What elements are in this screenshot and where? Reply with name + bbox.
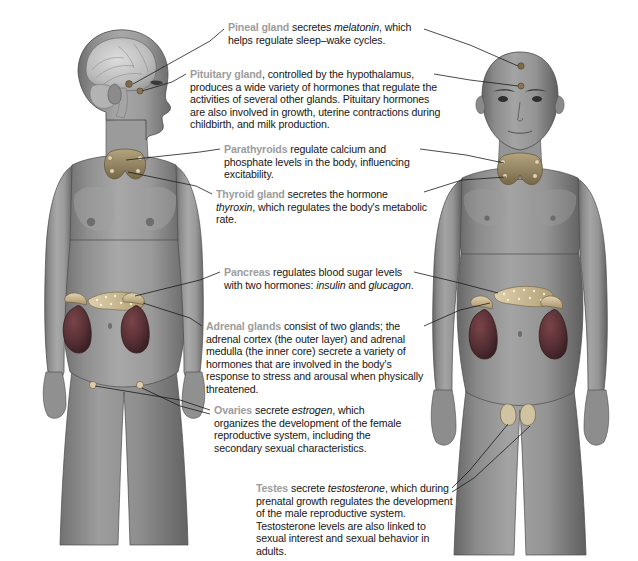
callout-pancreas: Pancreas regulates blood sugar levels wi…	[224, 266, 420, 291]
hormone-testosterone: testosterone	[328, 482, 385, 494]
callout-thyroid-gland: Thyroid gland secretes the hormone thyro…	[216, 188, 428, 226]
hormone-insulin: insulin	[316, 279, 345, 291]
male-nipple-left	[484, 215, 489, 220]
callout-ovaries: Ovaries secrete estrogen, which organize…	[214, 404, 404, 454]
hormone-thyroxin: thyroxin	[216, 201, 252, 213]
gland-label-pancreas: Pancreas	[224, 266, 270, 278]
callout-pituitary-gland: Pituitary gland, controlled by the hypot…	[190, 68, 442, 131]
male-figure	[431, 52, 609, 555]
male-hand-left	[431, 390, 456, 445]
callout-adrenal-glands: Adrenal glands consist of two glands; th…	[206, 320, 428, 396]
male-hand-right	[584, 390, 609, 445]
pituitary-gland-female	[137, 88, 143, 94]
callout-parathyroids: Parathyroids regulate calcium and phosph…	[224, 143, 424, 181]
male-navel	[518, 331, 522, 337]
female-navel	[108, 323, 112, 329]
testis-right	[520, 404, 536, 426]
gland-label-pineal: Pineal gland	[228, 21, 289, 33]
endocrine-system-diagram: Pineal gland secretes melatonin, which h…	[0, 0, 638, 561]
gland-label-testes: Testes	[256, 482, 288, 494]
gland-label-ovaries: Ovaries	[214, 404, 252, 416]
pineal-gland-male	[518, 63, 524, 69]
ovary-left	[89, 381, 96, 388]
callout-testes: Testes secrete testosterone, which durin…	[256, 482, 456, 558]
callout-pancreas-text-after: .	[411, 279, 414, 291]
gland-label-parathyroids: Parathyroids	[224, 143, 288, 155]
male-eye-right	[532, 96, 542, 102]
female-hand-right	[182, 372, 205, 418]
female-hand-left	[43, 372, 66, 418]
pituitary-gland-male	[518, 83, 524, 89]
callout-ovaries-text-before: secrete	[252, 404, 292, 416]
callout-testes-text-before: secrete	[288, 482, 328, 494]
female-figure	[43, 30, 205, 545]
callout-thyroid-text-before: secretes the hormone	[285, 188, 388, 200]
female-nipple-left	[87, 218, 95, 226]
gland-label-pituitary: Pituitary gland	[190, 68, 262, 80]
callout-pancreas-text-mid: and	[346, 279, 369, 291]
gland-label-adrenal: Adrenal glands	[206, 320, 281, 332]
hormone-melatonin: melatonin	[334, 21, 379, 33]
hormone-estrogen: estrogen	[292, 404, 332, 416]
male-eye-left	[498, 96, 508, 102]
pineal-gland-female	[126, 81, 133, 88]
callout-pineal-text-before: secretes	[289, 21, 334, 33]
ovary-right	[136, 381, 143, 388]
male-nipple-right	[550, 215, 555, 220]
female-ear	[108, 84, 121, 104]
gland-label-thyroid: Thyroid gland	[216, 188, 285, 200]
female-legs	[60, 370, 188, 545]
callout-pineal-gland: Pineal gland secretes melatonin, which h…	[228, 21, 438, 46]
hormone-glucagon: glucagon	[369, 279, 411, 291]
female-nipple-right	[146, 218, 154, 226]
testis-left	[500, 404, 516, 426]
